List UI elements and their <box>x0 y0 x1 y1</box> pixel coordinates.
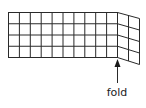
fold-arrow <box>115 59 121 83</box>
folded-flap <box>118 13 140 65</box>
main-grid <box>9 13 118 58</box>
fold-label: fold <box>100 87 134 99</box>
